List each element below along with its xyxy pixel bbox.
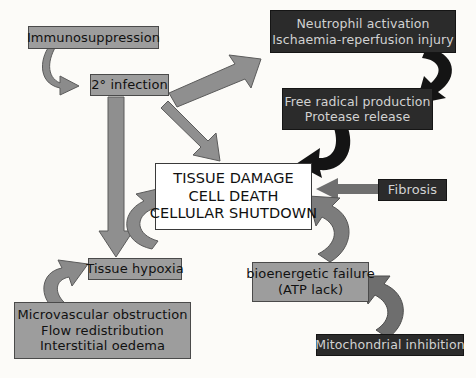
node-microvascular-obstruction-line-1: Microvascular obstruction <box>17 307 187 323</box>
node-tissue-hypoxia[interactable]: Tissue hypoxia <box>88 258 182 280</box>
node-neutrophil-activation-line-1: Neutrophil activation <box>296 16 429 31</box>
node-neutrophil-activation[interactable]: Neutrophil activation Ischaemia-reperfus… <box>270 10 456 53</box>
node-tissue-damage[interactable]: TISSUE DAMAGE CELL DEATH CELLULAR SHUTDO… <box>155 163 312 230</box>
node-free-radical-production-line-1: Free radical production <box>284 94 430 109</box>
node-secondary-infection[interactable]: 2° infection <box>90 74 169 96</box>
node-fibrosis[interactable]: Fibrosis <box>378 179 447 201</box>
node-tissue-damage-line-2: CELL DEATH <box>189 188 279 206</box>
arrow-infection-to-tissue-damage <box>160 97 234 165</box>
node-tissue-damage-line-1: TISSUE DAMAGE <box>173 170 294 188</box>
node-tissue-damage-line-3: CELLULAR SHUTDOWN <box>150 205 317 223</box>
node-free-radical-production-line-2: Protease release <box>305 109 410 124</box>
node-immunosuppression-line-1: Immunosuppression <box>27 30 160 46</box>
node-fibrosis-line-1: Fibrosis <box>388 182 437 198</box>
node-free-radical-production[interactable]: Free radical production Protease release <box>282 88 433 130</box>
node-microvascular-obstruction-line-2: Flow redistribution <box>41 323 164 339</box>
flow-diagram: Immunosuppression 2° infection Neutrophi… <box>0 0 476 378</box>
node-microvascular-obstruction-line-3: Interstitial oedema <box>40 338 165 354</box>
node-bioenergetic-failure[interactable]: bioenergetic failure (ATP lack) <box>252 262 369 302</box>
node-mitochondrial-inhibition[interactable]: Mitochondrial inhibition <box>316 334 464 356</box>
node-mitochondrial-inhibition-line-1: Mitochondrial inhibition <box>315 337 464 352</box>
node-secondary-infection-line-1: 2° infection <box>91 77 168 93</box>
node-tissue-hypoxia-line-1: Tissue hypoxia <box>86 261 183 277</box>
node-bioenergetic-failure-line-1: bioenergetic failure <box>246 266 374 282</box>
node-microvascular-obstruction[interactable]: Microvascular obstruction Flow redistrib… <box>14 302 191 359</box>
node-neutrophil-activation-line-2: Ischaemia-reperfusion injury <box>272 32 453 47</box>
node-bioenergetic-failure-line-2: (ATP lack) <box>278 282 343 298</box>
node-immunosuppression[interactable]: Immunosuppression <box>28 26 159 49</box>
